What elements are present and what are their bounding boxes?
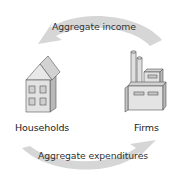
circular-flow-diagram: Aggregate income Aggregate expenditures … [0, 0, 169, 180]
aggregate-income-label: Aggregate income [52, 21, 136, 32]
aggregate-expenditures-label: Aggregate expenditures [38, 150, 148, 161]
households-label: Households [15, 122, 69, 133]
factory-icon [125, 51, 166, 112]
firms-label: Firms [134, 122, 159, 133]
house-icon [26, 56, 60, 112]
